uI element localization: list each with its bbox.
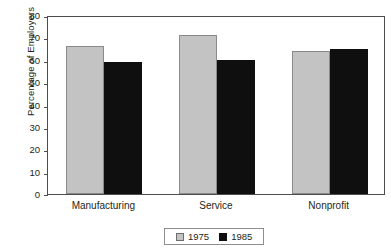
category-label-service: Service bbox=[160, 199, 273, 212]
bar-service-1985[interactable] bbox=[217, 60, 255, 194]
bar-manufacturing-1985[interactable] bbox=[104, 62, 142, 194]
x-axis-category-labels: ManufacturingServiceNonprofit bbox=[47, 199, 385, 215]
y-tick-mark-0 bbox=[44, 195, 48, 196]
bar-group-nonprofit bbox=[273, 17, 386, 194]
bar-nonprofit-1975[interactable] bbox=[292, 51, 330, 194]
y-tick-label-10: 10 bbox=[14, 168, 40, 178]
category-label-manufacturing: Manufacturing bbox=[47, 199, 160, 212]
bar-chart: Percentage of Employers 0102030405060708… bbox=[0, 0, 391, 251]
legend-swatch-1975 bbox=[176, 233, 184, 241]
y-tick-label-40: 40 bbox=[14, 101, 40, 111]
y-tick-label-0: 0 bbox=[14, 190, 40, 200]
y-tick-label-20: 20 bbox=[14, 146, 40, 156]
y-tick-label-80: 80 bbox=[14, 11, 40, 21]
y-tick-label-60: 60 bbox=[14, 56, 40, 66]
y-axis-tick-labels: 01020304050607080 bbox=[14, 16, 40, 195]
y-tick-label-70: 70 bbox=[14, 34, 40, 44]
legend-entry-1985[interactable]: 1985 bbox=[219, 232, 252, 242]
chart-legend: 19751985 bbox=[164, 228, 264, 245]
bar-nonprofit-1985[interactable] bbox=[330, 49, 368, 194]
y-tick-label-30: 30 bbox=[14, 123, 40, 133]
bar-group-manufacturing bbox=[48, 17, 161, 194]
legend-label-1975: 1975 bbox=[188, 232, 209, 242]
bar-manufacturing-1975[interactable] bbox=[66, 46, 104, 194]
legend-label-1985: 1985 bbox=[231, 232, 252, 242]
plot-inner bbox=[48, 17, 384, 194]
legend-swatch-1985 bbox=[219, 233, 227, 241]
category-label-nonprofit: Nonprofit bbox=[272, 199, 385, 212]
bar-service-1975[interactable] bbox=[179, 35, 217, 194]
bar-group-service bbox=[161, 17, 274, 194]
plot-area bbox=[47, 16, 385, 195]
y-tick-label-50: 50 bbox=[14, 78, 40, 88]
legend-entry-1975[interactable]: 1975 bbox=[176, 232, 209, 242]
